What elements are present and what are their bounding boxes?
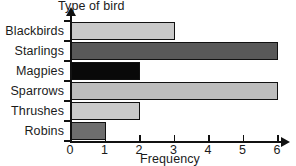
bar [71,22,175,40]
x-axis-tick-label: 6 [274,143,281,157]
category-label: Magpies [16,64,64,78]
bar [71,122,106,140]
y-axis-tick [64,20,71,22]
y-axis-tick [64,80,71,82]
bar [71,102,140,120]
x-axis-tick [243,135,245,142]
x-axis-tick [70,135,72,142]
x-axis-tick [139,135,141,142]
x-axis-tick [105,135,107,142]
category-label: Starlings [14,44,64,58]
category-label: Blackbirds [5,24,64,38]
y-axis-tick [64,100,71,102]
x-axis-tick [174,135,176,142]
bar [71,42,278,60]
x-axis-tick [208,135,210,142]
y-axis-tick [64,40,71,42]
x-axis-arrow-icon [281,137,290,147]
y-axis-tick [64,60,71,62]
bar-chart: Type of bird BlackbirdsStarlingsMagpiesS… [0,0,296,166]
y-axis-tick [64,120,71,122]
category-label: Thrushes [11,104,64,118]
bar [71,62,140,80]
y-axis-arrow-icon [66,7,76,16]
x-axis-tick [277,135,279,142]
x-axis-tick-label: 4 [205,143,212,157]
category-label: Robins [24,124,64,138]
bar [71,82,278,100]
category-label: Sparrows [10,84,64,98]
x-axis-tick-label: 1 [101,143,108,157]
x-axis-tick-label: 0 [67,143,74,157]
x-axis-title: Frequency [140,152,200,166]
x-axis-tick-label: 5 [239,143,246,157]
